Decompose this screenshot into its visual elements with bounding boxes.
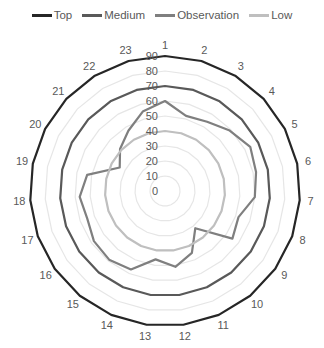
- category-label: 2: [201, 44, 207, 56]
- category-label: 22: [83, 60, 95, 72]
- category-label: 3: [238, 60, 244, 72]
- category-label: 13: [139, 330, 151, 342]
- series-low: [105, 131, 225, 250]
- category-label: 15: [67, 298, 79, 310]
- grid-ring: [90, 116, 240, 265]
- category-label: 10: [251, 298, 263, 310]
- category-label: 19: [16, 155, 28, 167]
- radial-tick-label: 20: [146, 155, 158, 167]
- radial-tick-label: 0: [152, 185, 158, 197]
- radial-tick-label: 70: [146, 80, 158, 92]
- grid-ring: [135, 161, 195, 221]
- grid-ring: [75, 101, 255, 280]
- category-label: 6: [305, 155, 311, 167]
- radial-tick-label: 90: [146, 50, 158, 62]
- category-label: 23: [119, 44, 131, 56]
- category-label: 1: [162, 39, 168, 51]
- category-label: 5: [292, 118, 298, 130]
- series-top: [30, 56, 299, 325]
- category-label: 11: [217, 319, 228, 331]
- radial-tick-labels: 0102030405060708090: [146, 50, 158, 197]
- radar-series: [30, 56, 299, 325]
- category-label: 14: [101, 319, 113, 331]
- radial-tick-label: 60: [146, 95, 158, 107]
- category-label: 12: [179, 330, 191, 342]
- radial-tick-label: 30: [146, 140, 158, 152]
- category-label: 20: [29, 118, 41, 130]
- category-label: 4: [269, 85, 275, 97]
- radar-chart: 0102030405060708090 12345678910111213141…: [0, 0, 324, 348]
- radial-tick-label: 50: [146, 110, 158, 122]
- radial-tick-label: 80: [146, 65, 158, 77]
- category-label: 21: [52, 85, 64, 97]
- category-label: 18: [13, 195, 25, 207]
- category-label: 17: [21, 234, 33, 246]
- category-label: 9: [281, 269, 287, 281]
- radial-tick-label: 10: [146, 170, 158, 182]
- category-label: 7: [308, 195, 314, 207]
- category-label: 8: [300, 234, 306, 246]
- grid-ring: [120, 146, 210, 236]
- radial-tick-label: 40: [146, 125, 158, 137]
- category-label: 16: [40, 269, 52, 281]
